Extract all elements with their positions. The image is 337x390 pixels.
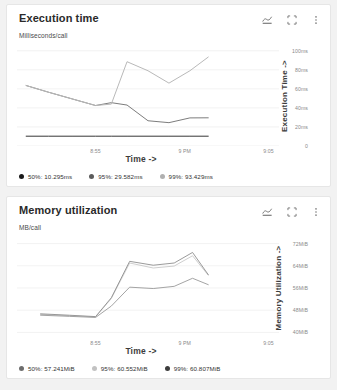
- gridlines: [17, 51, 279, 146]
- card-header: Memory utilization: [7, 197, 330, 218]
- legend-label: 95%: 29.582ms: [98, 173, 142, 180]
- legend-item[interactable]: 95%: 29.582ms: [89, 173, 142, 180]
- execution-time-plot: [17, 46, 279, 146]
- legend-item[interactable]: 50%: 57.241MiB: [19, 365, 75, 372]
- x-axis-title: Time ->: [7, 346, 275, 356]
- legend-label: 99%: 93.429ms: [169, 173, 213, 180]
- legend-item[interactable]: 99%: 93.429ms: [160, 173, 213, 180]
- card-subtitle: MB/call: [19, 224, 330, 232]
- memory-utilization-plot: [17, 238, 279, 338]
- card-subtitle: Milliseconds/call: [19, 32, 330, 40]
- fullscreen-icon[interactable]: [285, 205, 298, 218]
- page-title: Memory utilization: [19, 204, 117, 217]
- metrics-dashboard: Execution time: [0, 0, 337, 390]
- chart-area: 0 20ms 40ms 60ms 80ms 100ms Execution Ti…: [7, 44, 330, 156]
- legend-color-dot: [92, 366, 97, 371]
- legend-label: 95%: 60.552MiB: [101, 365, 148, 372]
- series-lines: [26, 57, 208, 136]
- chart-legend: 50%: 57.241MiB 95%: 60.552MiB 99%: 60.80…: [19, 365, 322, 372]
- page-title: Execution time: [19, 12, 99, 25]
- y-axis-ticks: 40MiB 48MiB 56MiB 64MiB 72MiB Memory Uti…: [283, 236, 315, 340]
- series-lines: [41, 252, 209, 317]
- y-axis-title: Memory Utilization ->: [274, 246, 283, 331]
- chart-area: 40MiB 48MiB 56MiB 64MiB 72MiB Memory Uti…: [7, 236, 330, 348]
- legend-color-dot: [19, 174, 24, 179]
- legend-label: 50%: 57.241MiB: [28, 365, 75, 372]
- y-axis-ticks: 0 20ms 40ms 60ms 80ms 100ms Execution Ti…: [283, 44, 315, 148]
- overflow-menu-icon[interactable]: [309, 205, 322, 218]
- card-header: Execution time: [7, 5, 330, 26]
- legend-color-dot: [19, 366, 24, 371]
- y-axis-title: Execution Time ->: [281, 60, 290, 132]
- legend-item[interactable]: 95%: 60.552MiB: [92, 365, 148, 372]
- legend-item[interactable]: 50%: 10.295ms: [19, 173, 72, 180]
- fullscreen-icon[interactable]: [285, 13, 298, 26]
- legend-color-dot: [165, 366, 170, 371]
- overflow-menu-icon[interactable]: [309, 13, 322, 26]
- legend-label: 99%: 60.807MiB: [174, 365, 221, 372]
- chart-type-icon[interactable]: [261, 205, 274, 218]
- x-axis-title: Time ->: [7, 154, 275, 164]
- legend-label: 50%: 10.295ms: [28, 173, 72, 180]
- memory-utilization-card: Memory utilization: [6, 196, 331, 379]
- execution-time-card: Execution time: [6, 4, 331, 187]
- legend-color-dot: [89, 174, 94, 179]
- chart-type-icon[interactable]: [261, 13, 274, 26]
- legend-item[interactable]: 99%: 60.807MiB: [165, 365, 221, 372]
- legend-color-dot: [160, 174, 165, 179]
- header-actions: [261, 12, 322, 26]
- chart-legend: 50%: 10.295ms 95%: 29.582ms 99%: 93.429m…: [19, 173, 322, 180]
- plot-svg: [17, 238, 279, 338]
- plot-svg: [17, 46, 279, 146]
- header-actions: [261, 204, 322, 218]
